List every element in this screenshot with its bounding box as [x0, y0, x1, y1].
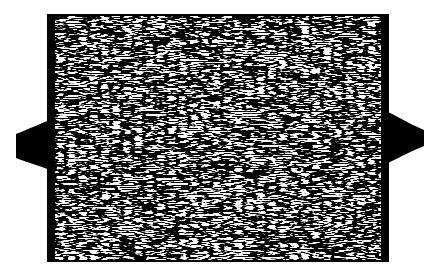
right-grip-tab — [388, 112, 424, 163]
crack-texture — [55, 16, 381, 260]
figure — [0, 0, 440, 276]
specimen-figure — [0, 0, 440, 276]
left-grip-tab — [16, 120, 50, 170]
